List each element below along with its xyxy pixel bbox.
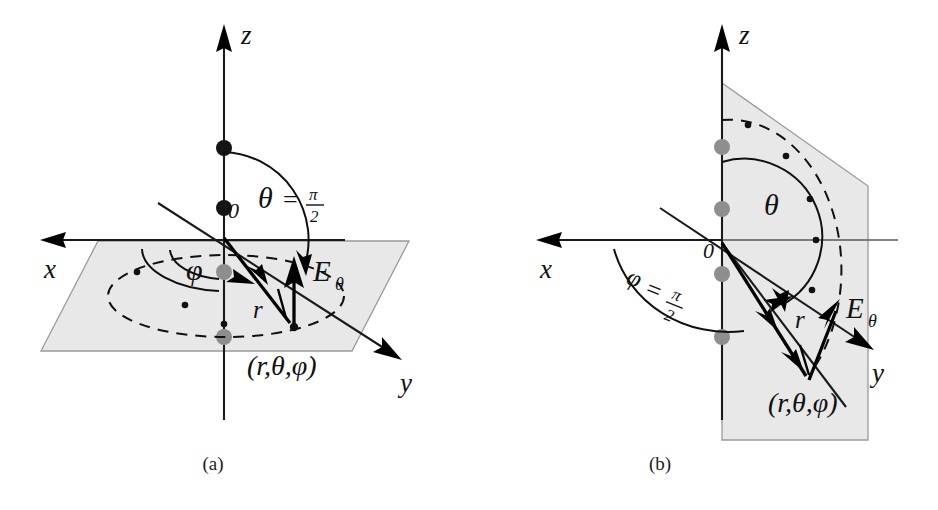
panel-b: x y z θ φ = π: [536, 20, 898, 475]
E-theta-base-label-b: E: [845, 292, 864, 324]
point-label-b: (r,θ,φ): [768, 387, 838, 418]
r-label-a: r: [253, 296, 263, 323]
z-axis-label-a: z: [240, 20, 252, 50]
dashed-marker-b-5: [809, 287, 816, 294]
dashed-marker-b-2: [783, 153, 790, 160]
x-axis-label-a: x: [43, 254, 56, 284]
spherical-coordinates-figure: x y z θ = π 2: [0, 0, 938, 510]
dashed-marker-a-1: [134, 269, 141, 276]
origin-label-b: 0: [703, 238, 714, 263]
dashed-marker-b-3: [807, 196, 814, 203]
y-axis-arrowhead-a: [373, 337, 402, 360]
z-axis-label-b: z: [738, 20, 750, 50]
x-axis-label-b: x: [539, 254, 552, 284]
theta-numerator-a: π: [309, 185, 318, 204]
z-axis-arrowhead-b: [714, 24, 730, 52]
theta-denominator-a: 2: [310, 207, 319, 226]
dashed-marker-a-3: [221, 321, 228, 328]
y-axis-label-b: y: [869, 358, 884, 388]
z-axis-arrowhead-a: [216, 24, 232, 52]
theta-label-group-a: θ = π 2: [258, 181, 324, 226]
theta-symbol-a: θ: [258, 181, 273, 214]
y-axis-label-a: y: [397, 368, 412, 398]
origin-label-a: 0: [228, 198, 239, 223]
observation-point-a: [290, 323, 298, 331]
dashed-marker-b-4: [813, 237, 820, 244]
dipole-dot-gray-b-3: [714, 266, 730, 282]
dipole-dot-gray-a-1: [216, 264, 232, 280]
phi-equals-b: =: [642, 274, 666, 306]
phi-symbol-b: φ: [623, 263, 646, 293]
dashed-marker-b-1: [745, 122, 752, 129]
phi-numerator-b: π: [669, 284, 684, 305]
theta-symbol-b: θ: [764, 188, 779, 221]
theta-equals-a: =: [283, 185, 298, 214]
caption-b: (b): [649, 453, 671, 475]
x-axis-arrowhead-a: [40, 232, 66, 248]
E-theta-base-label-a: E: [312, 255, 331, 287]
dipole-dot-gray-b-1: [714, 139, 730, 155]
x-axis-arrowhead-b: [536, 232, 562, 248]
caption-a: (a): [202, 453, 223, 475]
panel-a: x y z θ = π 2: [40, 20, 412, 475]
dashed-marker-a-2: [182, 302, 189, 309]
figure-root: x y z θ = π 2: [0, 0, 938, 510]
point-label-a: (r,θ,φ): [247, 350, 317, 381]
phi-denominator-b: 2: [662, 305, 677, 326]
dipole-dot-black-a-1: [216, 140, 232, 156]
phi-label-group-b: φ = π 2: [616, 263, 691, 328]
phi-symbol-a: φ: [186, 253, 203, 286]
r-label-b: r: [795, 306, 805, 333]
dipole-dot-gray-b-2: [714, 201, 730, 217]
E-theta-subscript-label-b: θ: [868, 311, 877, 331]
